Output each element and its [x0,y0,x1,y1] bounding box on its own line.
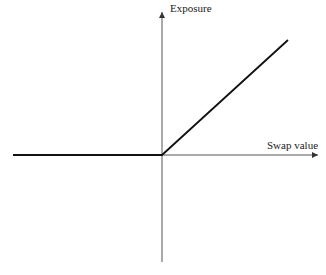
y-axis-label: Exposure [170,2,212,14]
exposure-line [13,40,288,155]
x-axis-label: Swap value [267,139,318,151]
exposure-diagram [0,0,326,275]
